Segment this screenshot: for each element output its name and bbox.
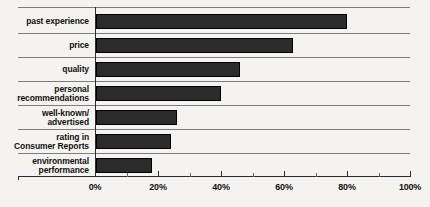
x-axis-tick bbox=[158, 171, 159, 177]
x-axis-minor-tick bbox=[379, 173, 380, 177]
x-axis-tick bbox=[221, 171, 222, 177]
row-separator bbox=[18, 33, 410, 34]
table-row: environmental performance bbox=[0, 154, 430, 178]
bar-price bbox=[96, 38, 293, 53]
x-axis-minor-tick bbox=[253, 173, 254, 177]
category-label-environmental-performance: environmental performance bbox=[0, 154, 89, 178]
x-axis-minor-tick bbox=[127, 173, 128, 177]
row-separator bbox=[18, 105, 410, 106]
category-label-personal-recommendations: personal recommendations bbox=[0, 82, 89, 106]
y-axis-line bbox=[95, 7, 96, 176]
category-label-well-known-advertised: well-known/ advertised bbox=[0, 106, 89, 130]
bar-rating-in-consumer-reports bbox=[96, 134, 171, 149]
table-row: price bbox=[0, 34, 430, 58]
table-row: well-known/ advertised bbox=[0, 106, 430, 130]
x-axis-tick bbox=[347, 171, 348, 177]
x-axis-tick bbox=[410, 171, 411, 177]
table-row: past experience bbox=[0, 10, 430, 34]
bar-well-known-advertised bbox=[96, 110, 177, 125]
category-label-price: price bbox=[0, 34, 89, 58]
row-separator bbox=[18, 129, 410, 130]
horizontal-bar-chart: past experience price quality personal r… bbox=[0, 0, 430, 207]
table-row: quality bbox=[0, 58, 430, 82]
category-label-past-experience: past experience bbox=[0, 10, 89, 34]
row-separator bbox=[18, 81, 410, 82]
x-axis-tick-label: 20% bbox=[136, 182, 180, 192]
x-axis-minor-tick bbox=[190, 173, 191, 177]
table-row: rating in Consumer Reports bbox=[0, 130, 430, 154]
bar-environmental-performance bbox=[96, 158, 152, 173]
row-separator bbox=[18, 57, 410, 58]
x-axis-tick-label: 80% bbox=[325, 182, 369, 192]
bar-personal-recommendations bbox=[96, 86, 221, 101]
bar-past-experience bbox=[96, 14, 347, 29]
x-axis-line bbox=[18, 176, 410, 177]
x-axis-minor-tick bbox=[316, 173, 317, 177]
category-label-quality: quality bbox=[0, 58, 89, 82]
x-axis-tick-label: 100% bbox=[388, 182, 430, 192]
x-axis-tick-label: 60% bbox=[262, 182, 306, 192]
x-axis-tick-label: 0% bbox=[73, 182, 117, 192]
x-axis-left-cap bbox=[18, 176, 19, 180]
category-label-rating-in-consumer-reports: rating in Consumer Reports bbox=[0, 130, 89, 154]
row-separator bbox=[18, 153, 410, 154]
chart-rows: past experience price quality personal r… bbox=[0, 0, 430, 176]
x-axis-tick bbox=[95, 171, 96, 177]
table-row: personal recommendations bbox=[0, 82, 430, 106]
bar-quality bbox=[96, 62, 240, 77]
x-axis-tick bbox=[284, 171, 285, 177]
x-axis-tick-label: 40% bbox=[199, 182, 243, 192]
